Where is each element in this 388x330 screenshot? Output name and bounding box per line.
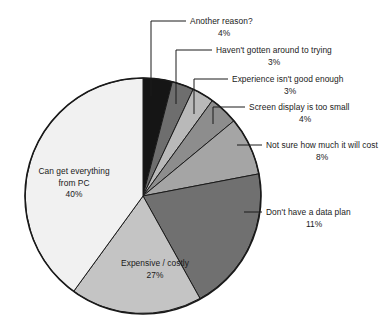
slice-label-text: Not sure how much it will cost [266,140,378,150]
slice-label-another-reason: Another reason? 4% [190,16,253,39]
slice-label-percent: 3% [216,57,332,69]
slice-label-text-line1: Can get everything [38,166,109,176]
slice-label-text: Haven't gotten around to trying [216,45,332,55]
pie-chart-figure: Another reason? 4% Haven't gotten around… [0,0,388,330]
slice-label-percent: 11% [266,219,351,231]
slice-label-data-plan: Don't have a data plan 11% [266,207,351,230]
slice-label-text: Screen display is too small [249,102,350,112]
slice-label-can-get-pc: Can get everything from PC 40% [22,166,126,201]
slice-label-not-sure-cost: Not sure how much it will cost 8% [266,140,378,163]
slice-label-percent: 3% [232,86,344,98]
slice-label-percent: 27% [147,270,164,280]
slice-label-experience: Experience isn't good enough 3% [232,74,344,97]
slice-label-screen-display: Screen display is too small 4% [249,102,350,125]
slice-label-havent-gotten: Haven't gotten around to trying 3% [216,45,332,68]
slice-label-text: Another reason? [190,16,253,26]
slice-label-percent: 4% [190,28,253,40]
slice-label-percent: 40% [66,189,83,199]
slice-label-text-line1: Expensive / costly [121,258,189,268]
slice-label-expensive: Expensive / costly 27% [106,258,204,281]
slice-label-percent: 8% [266,152,378,164]
slice-label-text-line2: from PC [58,178,89,188]
slice-label-text: Experience isn't good enough [232,74,344,84]
slice-label-text: Don't have a data plan [266,207,351,217]
slice-label-percent: 4% [249,114,350,126]
